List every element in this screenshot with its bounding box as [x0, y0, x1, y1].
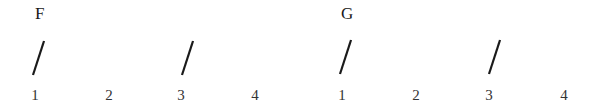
- strum-slash-icon: [487, 39, 501, 75]
- strum-slash-icon: [338, 39, 352, 75]
- beat-number: 4: [556, 86, 572, 104]
- beat-number: 2: [408, 86, 424, 104]
- beat-number: 1: [334, 86, 350, 104]
- beat-number: 3: [481, 86, 497, 104]
- measure-g: G 1 2 3 4: [0, 0, 597, 105]
- chord-label: G: [341, 4, 353, 24]
